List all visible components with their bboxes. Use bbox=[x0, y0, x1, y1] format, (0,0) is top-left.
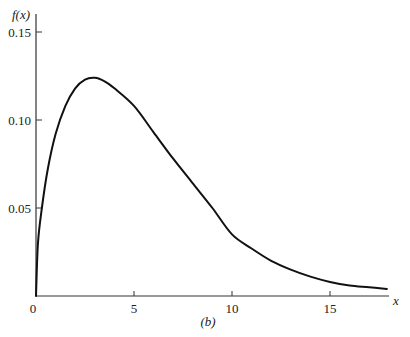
y-tick-label: 0.15 bbox=[8, 25, 31, 40]
y-axis-label: f(x) bbox=[12, 7, 30, 22]
x-tick-label: 15 bbox=[324, 301, 337, 316]
x-tick-label: 5 bbox=[131, 301, 138, 316]
density-curve bbox=[36, 78, 387, 296]
figure-caption: (b) bbox=[200, 314, 215, 329]
x-tick-label: 10 bbox=[226, 301, 239, 316]
y-tick-label: 0.10 bbox=[8, 113, 31, 128]
x-axis-label: x bbox=[392, 293, 399, 308]
chart: 051015 0.050.100.15 f(x) x (b) bbox=[0, 0, 410, 337]
y-tick-label: 0.05 bbox=[8, 201, 31, 216]
x-tick-label: 0 bbox=[30, 301, 37, 316]
x-ticks: 051015 bbox=[30, 291, 337, 316]
y-ticks: 0.050.100.15 bbox=[8, 25, 42, 216]
